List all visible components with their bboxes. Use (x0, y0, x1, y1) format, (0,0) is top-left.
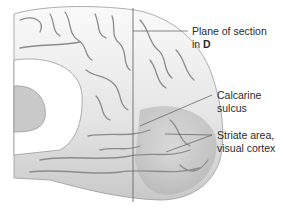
plane-of-section-label: Plane of section in D (192, 25, 267, 50)
calcarine-sulcus-label: Calcarine sulcus (217, 89, 261, 114)
striate-area-label: Striate area, visual cortex (217, 129, 275, 154)
label-line: in D (192, 38, 267, 51)
label-line: sulcus (217, 102, 261, 115)
label-line: Plane of section (192, 25, 267, 38)
brain-diagram: Plane of section in D Calcarine sulcus S… (0, 0, 283, 215)
label-line: visual cortex (217, 142, 275, 155)
panel-reference: D (203, 38, 211, 50)
label-line: Striate area, (217, 129, 275, 142)
label-line: Calcarine (217, 89, 261, 102)
